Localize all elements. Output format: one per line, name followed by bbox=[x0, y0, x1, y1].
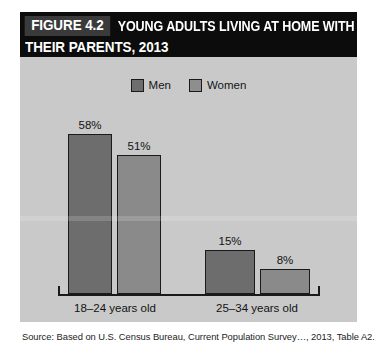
figure-title-line-2: THEIR PARENTS, 2013 bbox=[25, 37, 334, 57]
chart-panel: Men Women 58% 51% 18–24 years old 15% 8%… bbox=[20, 57, 357, 322]
x-axis-label-18-24: 18–24 years old bbox=[50, 302, 180, 314]
figure-source-note: Source: Based on U.S. Census Bureau, Cur… bbox=[22, 331, 375, 342]
figure-title-bar: FIGURE 4.2YOUNG ADULTS LIVING AT HOME WI… bbox=[20, 12, 357, 57]
plot-area: 58% 51% 18–24 years old 15% 8% 25–34 yea… bbox=[20, 57, 357, 322]
title-line-1: FIGURE 4.2YOUNG ADULTS LIVING AT HOME WI… bbox=[20, 15, 333, 36]
bar-value-women-25-34: 8% bbox=[250, 254, 320, 266]
x-axis-tick-right bbox=[318, 286, 320, 296]
bar-value-men-25-34: 15% bbox=[195, 235, 265, 247]
x-axis-label-25-34: 25–34 years old bbox=[192, 302, 322, 314]
bar-women-18-24[interactable] bbox=[117, 155, 161, 294]
bar-women-25-34[interactable] bbox=[260, 269, 310, 294]
figure-number-label: FIGURE 4.2 bbox=[25, 16, 111, 36]
bar-value-women-18-24: 51% bbox=[107, 140, 171, 152]
figure-title-line-1: YOUNG ADULTS LIVING AT HOME WITH bbox=[118, 16, 355, 36]
bar-men-25-34[interactable] bbox=[205, 250, 255, 294]
x-axis-line bbox=[58, 294, 320, 296]
bar-value-men-18-24: 58% bbox=[58, 119, 122, 131]
x-axis-tick-left bbox=[58, 286, 60, 296]
bar-men-18-24[interactable] bbox=[68, 134, 112, 294]
